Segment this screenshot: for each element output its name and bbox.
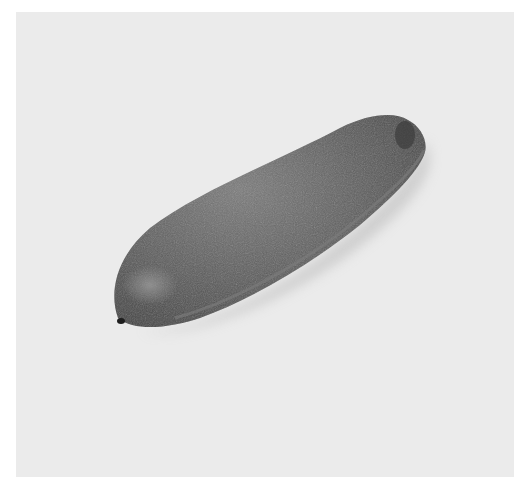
object-stem-end	[117, 318, 125, 324]
object-end-bump	[395, 121, 415, 149]
object-highlight	[122, 265, 178, 305]
photo-panel: Grayscale photograph of a single elongat…	[16, 12, 514, 477]
elongated-object-illustration	[0, 0, 530, 490]
